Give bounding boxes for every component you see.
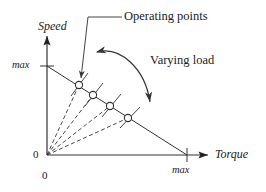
varying-load-annotation: Varying load [150,54,214,67]
operating-point-1 [75,81,82,88]
load-ray-1 [47,85,79,155]
load-ray-3 [47,106,110,155]
x-axis-max-label: max [172,165,190,176]
x-axis-label: Torque [215,148,248,160]
characteristic-line [47,66,187,155]
y-axis-label: Speed [38,20,67,32]
operating-points-leader [81,17,122,78]
y-axis-origin-label: 0 [33,149,39,160]
operating-point-3 [106,102,113,109]
y-axis-max-label: max [12,60,30,71]
operating-point-2 [89,91,96,98]
operating-points-annotation: Operating points [124,10,208,23]
operating-point-4 [124,114,131,121]
varying-load-arrow [97,51,150,102]
figure-canvas: Speed Torque max max 0 0 Operating point… [0,0,266,192]
x-axis-origin-label: 0 [42,170,48,181]
load-ray-4 [47,118,128,155]
load-ray-group [47,85,128,155]
